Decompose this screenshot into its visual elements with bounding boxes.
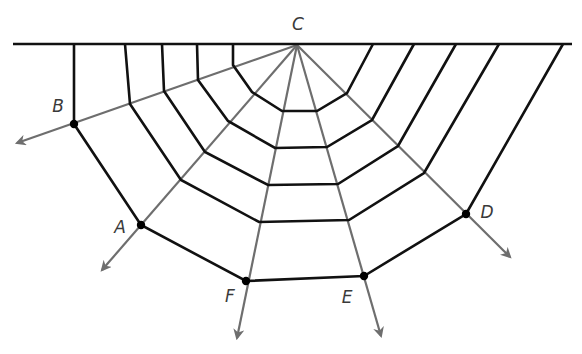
web-ring-5 (74, 44, 563, 281)
spider-web-diagram: C B A F E D (0, 0, 582, 354)
web-ring-4 (125, 44, 499, 222)
ray-d-arrow (297, 45, 510, 257)
ray-f-arrow (237, 45, 297, 338)
label-point-d: D (480, 204, 493, 221)
label-point-a: A (114, 219, 126, 236)
web-rings (74, 44, 563, 281)
point-f-dot (242, 277, 250, 285)
web-ring-2 (197, 44, 414, 148)
ray-e-arrow (297, 45, 381, 336)
label-center-c: C (292, 16, 304, 33)
point-e-dot (360, 272, 368, 280)
web-ring-3 (162, 44, 456, 185)
point-b-dot (70, 120, 78, 128)
ray-lines (17, 45, 510, 338)
label-point-f: F (225, 288, 235, 305)
point-d-dot (462, 210, 470, 218)
point-a-dot (137, 221, 145, 229)
web-figure (0, 0, 582, 354)
label-point-e: E (342, 289, 353, 306)
label-point-b: B (52, 98, 64, 115)
